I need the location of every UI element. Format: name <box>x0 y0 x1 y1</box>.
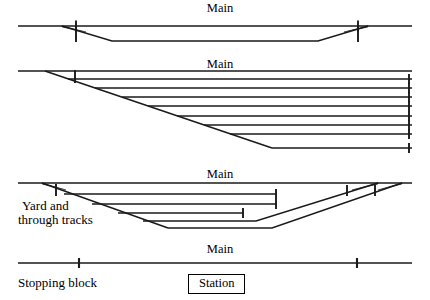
stopping-block-legend-label: Stopping block <box>18 276 97 291</box>
panel-3-main-label: Main <box>190 167 250 181</box>
panel1-stopping-blocks <box>76 21 358 43</box>
panel2-ladder-line <box>45 71 272 148</box>
panel3-lower-turnout-point <box>378 183 402 190</box>
track-layout-diagram: Main Main Main Main Yard and through tra… <box>0 0 430 300</box>
panel-4-main-label: Main <box>190 242 250 256</box>
panel-1-crossover <box>18 21 412 43</box>
station-legend-box: Station <box>188 274 245 294</box>
panel-2-main-label: Main <box>190 57 250 71</box>
panel3-stub-tracks <box>64 194 277 213</box>
yard-and-through-tracks-label-line2: through tracks <box>18 213 93 228</box>
panel-1-main-label: Main <box>190 1 250 15</box>
through-track-upper <box>143 183 378 221</box>
panel1-left-turnout-point <box>62 26 86 32</box>
panel-2-yard-ladder <box>18 70 412 153</box>
panel1-siding-track <box>62 26 368 41</box>
station-legend-label: Station <box>199 276 234 291</box>
panel-4-station <box>18 258 412 268</box>
panel1-right-turnout-point <box>344 26 368 32</box>
panel3-left-turnout-point <box>42 183 66 190</box>
